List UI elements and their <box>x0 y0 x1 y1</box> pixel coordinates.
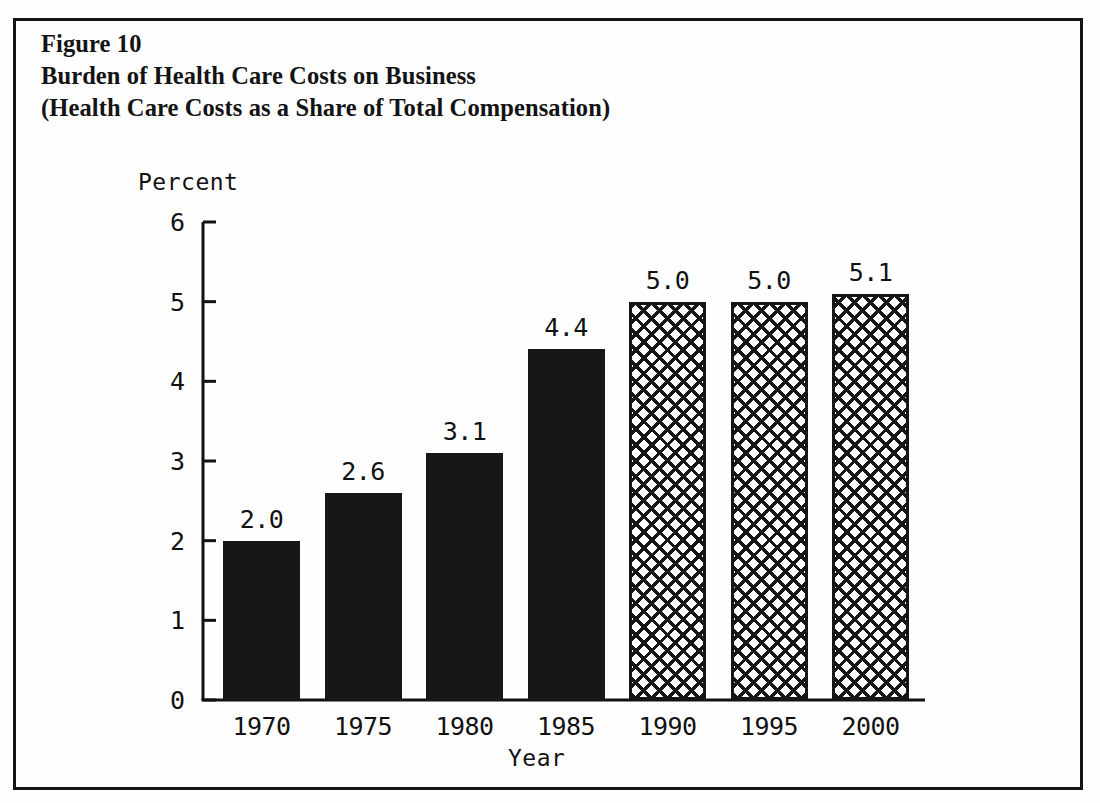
figure-page: Figure 10 Burden of Health Care Costs on… <box>0 0 1100 803</box>
chart-axes <box>0 0 1100 803</box>
